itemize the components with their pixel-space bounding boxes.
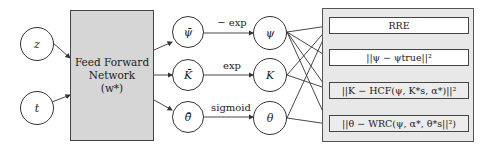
network-label-weights: (w*) [101,82,123,95]
feed-forward-network-block: Feed Forward Network (w*) [70,10,154,141]
network-label-line1: Feed Forward [75,56,149,69]
transform-sigmoid-label: sigmoid [206,102,256,113]
raw-output-K-bar: K̄ [172,59,204,91]
output-node-psi: ψ [253,16,287,50]
loss-wrc: ||θ − WRC(ψ, α*, θ*s||²) [329,115,469,132]
loss-rre: RRE [329,17,469,34]
loss-psi-data: ||ψ − ψtrue||² [329,49,469,66]
output-node-theta: θ [253,101,287,135]
raw-output-theta-bar: θ̄ [172,101,204,133]
loss-hcf: ||K − HCF(ψ, K*s, α*)||² [329,82,469,99]
transform-exp-label: exp [212,60,252,71]
input-node-z: z [20,27,54,61]
raw-output-psi-bar: ψ̄ [172,16,204,48]
input-node-t: t [20,91,54,125]
output-node-K: K [253,58,287,92]
transform-neg-exp-label: − exp [212,17,252,28]
network-label-line2: Network [89,69,135,82]
